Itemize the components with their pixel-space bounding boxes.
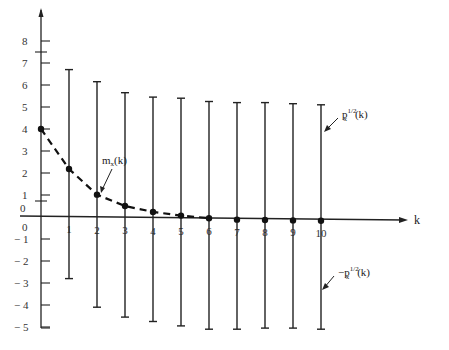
y-tick-label: − 1 bbox=[14, 233, 28, 245]
y-ticks: − 5− 4− 3− 2− 1012345678 bbox=[14, 35, 50, 333]
mean-pointer-line bbox=[102, 169, 112, 190]
y-tick-label: 0 bbox=[22, 221, 28, 233]
mean-marker bbox=[206, 215, 212, 221]
y-tick-label: 7 bbox=[22, 57, 28, 69]
y-tick-label: 1 bbox=[22, 189, 28, 201]
y-tick-label: 8 bbox=[22, 35, 28, 47]
axes bbox=[20, 8, 408, 328]
x-axis-arrow-icon bbox=[399, 217, 408, 223]
x-axis-label: k bbox=[414, 213, 420, 227]
y-tick-label: − 5 bbox=[14, 321, 29, 333]
lower-arrowhead-icon bbox=[322, 283, 329, 290]
mean-marker bbox=[94, 191, 100, 197]
lower-annotation: −p1/2x(k) bbox=[322, 265, 370, 290]
zero-label-above-axis: 0 bbox=[20, 202, 26, 214]
mean-marker bbox=[122, 203, 128, 209]
mean-marker bbox=[318, 218, 324, 224]
mean-label: mx(k) bbox=[102, 154, 127, 168]
y-tick-label: 2 bbox=[22, 167, 28, 179]
y-tick-label: 4 bbox=[22, 123, 28, 135]
mean-marker bbox=[290, 217, 296, 223]
mean-marker bbox=[234, 216, 240, 222]
error-bars bbox=[65, 70, 325, 330]
mean-marker bbox=[66, 166, 72, 172]
upper-label: p1/2x(k) bbox=[342, 107, 368, 123]
mean-marker bbox=[38, 126, 44, 132]
lower-label: −p1/2x(k) bbox=[338, 265, 370, 281]
y-tick-label: − 4 bbox=[14, 299, 29, 311]
y-tick-label: 5 bbox=[22, 101, 28, 113]
y-tick-label: 3 bbox=[22, 145, 28, 157]
mean-marker bbox=[262, 217, 268, 223]
mean-marker bbox=[178, 212, 184, 218]
x-ticks: 12345678910 bbox=[66, 223, 327, 238]
mean-annotation: mx(k) bbox=[100, 154, 127, 193]
y-axis-arrow-icon bbox=[39, 8, 44, 17]
upper-annotation: p1/2x(k) bbox=[324, 107, 368, 132]
mean-marker bbox=[150, 209, 156, 215]
chart: − 5− 4− 3− 2− 1012345678 12345678910 0 k… bbox=[0, 0, 449, 350]
y-tick-label: 6 bbox=[22, 79, 28, 91]
mean-arrowhead-icon bbox=[100, 186, 105, 193]
y-tick-label: − 3 bbox=[14, 277, 29, 289]
y-tick-label: − 2 bbox=[14, 255, 28, 267]
